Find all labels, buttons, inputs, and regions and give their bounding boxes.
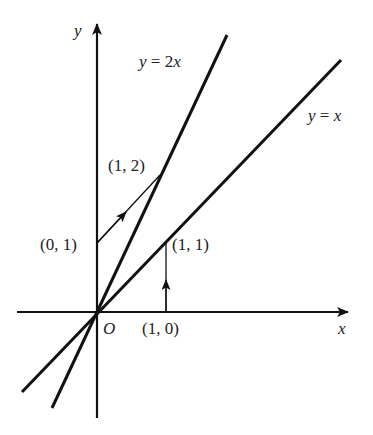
x-axis-label: x <box>337 319 346 338</box>
line-label-y-equals-2x: y = 2x <box>137 52 181 71</box>
line-label-y-equals-x: y = x <box>306 106 342 125</box>
y-axis-label: y <box>72 21 82 40</box>
diagram-canvas: y x O y = 2x y = x (1, 2) (0, 1) (1, 1) … <box>0 0 373 435</box>
arrow-0-1-to-1-2 <box>97 175 160 243</box>
point-label-1-1: (1, 1) <box>172 235 209 254</box>
line-y-equals-2x <box>52 35 227 408</box>
point-label-1-0: (1, 0) <box>142 319 179 338</box>
point-label-1-2: (1, 2) <box>108 156 145 175</box>
point-label-0-1: (0, 1) <box>40 235 77 254</box>
line-y-equals-x <box>22 60 341 392</box>
origin-label: O <box>103 319 115 338</box>
